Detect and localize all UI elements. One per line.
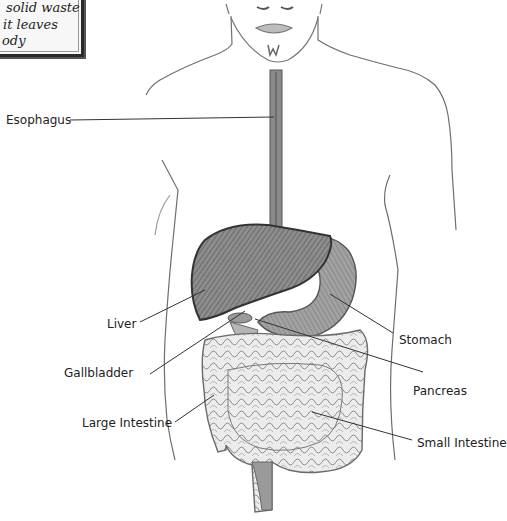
caption-line-3: ody — [2, 33, 26, 49]
small-intestine-organ — [228, 363, 342, 450]
label-pancreas: Pancreas — [413, 384, 467, 398]
caption-line-2: it leaves — [3, 17, 58, 33]
label-stomach: Stomach — [399, 333, 452, 347]
label-large-intestine: Large Intestine — [82, 416, 172, 430]
label-esophagus: Esophagus — [6, 113, 71, 127]
label-liver: Liver — [107, 317, 136, 331]
face-outline — [226, 4, 322, 62]
caption-line-1: solid waste — [6, 0, 80, 16]
label-gallbladder: Gallbladder — [64, 366, 133, 380]
label-small-intestine: Small Intestine — [417, 436, 507, 450]
